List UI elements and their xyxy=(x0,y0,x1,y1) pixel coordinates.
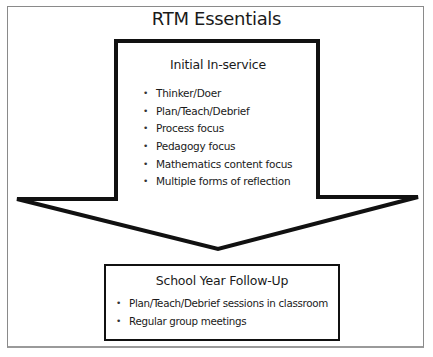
list-item: Mathematics content focus xyxy=(143,156,292,174)
list-item: Multiple forms of reflection xyxy=(143,173,292,191)
follow-up-list: Plan/Teach/Debrief sessions in classroom… xyxy=(116,294,328,330)
list-item: Thinker/Doer xyxy=(143,85,292,103)
list-item: Regular group meetings xyxy=(116,312,328,330)
list-item: Process focus xyxy=(143,120,292,138)
initial-inservice-heading: Initial In-service xyxy=(118,57,318,72)
list-item: Pedagogy focus xyxy=(143,138,292,156)
follow-up-heading: School Year Follow-Up xyxy=(106,273,338,288)
list-item: Plan/Teach/Debrief sessions in classroom xyxy=(116,294,328,312)
list-item: Plan/Teach/Debrief xyxy=(143,103,292,121)
follow-up-box: School Year Follow-Up Plan/Teach/Debrief… xyxy=(104,264,340,341)
initial-inservice-list: Thinker/Doer Plan/Teach/Debrief Process … xyxy=(143,85,292,191)
